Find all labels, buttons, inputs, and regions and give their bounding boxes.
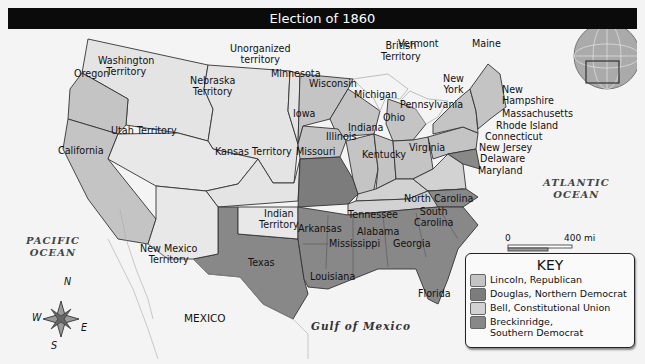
label-unorganized-territory: Unorganizedterritory [230,44,291,65]
label-maryland: Maryland [478,166,523,177]
label-new-hampshire: NewHampshire [502,85,554,106]
label-california: California [58,146,104,157]
label-new-mexico-territory: New MexicoTerritory [140,244,197,265]
label-mississippi: Mississippi [329,239,380,250]
key-item-lincoln: Lincoln, Republican [470,274,634,287]
label-new-jersey: New Jersey [479,143,532,154]
scale-bar [508,245,572,251]
region-missouri [298,157,358,207]
locator-globe [574,29,637,89]
label-iowa: Iowa [293,109,315,120]
label-florida: Florida [418,289,451,300]
compass-rose [43,301,79,337]
compass-s: S [51,341,57,352]
label-delaware: Delaware [480,154,525,165]
key-title: KEY [466,257,634,273]
label-georgia: Georgia [393,239,431,250]
label-kentucky: Kentucky [362,150,406,161]
compass-n: N [64,277,71,288]
label-illinois: Illinois [326,132,356,143]
label-oregon: Oregon [74,69,109,80]
key-item-douglas: Douglas, Northern Democrat [470,288,634,301]
label-rhode-island: Rhode Island [496,121,558,132]
label-michigan: Michigan [354,90,397,101]
label-missouri: Missouri [296,147,336,158]
label-utah-territory: Utah Territory [111,126,177,137]
key-item-breckinridge: Breckinridge,Southern Democrat [470,316,634,338]
label-tennessee: Tennessee [348,210,398,221]
compass-e: E [81,323,87,334]
label-texas: Texas [248,258,275,269]
key-item-bell: Bell, Constitutional Union [470,302,634,315]
compass-w: W [32,313,42,324]
swatch-breckinridge [470,316,486,329]
label-wisconsin: Wisconsin [309,79,357,90]
label-louisiana: Louisiana [310,272,355,283]
label-indiana: Indiana [348,123,384,134]
swatch-douglas [470,288,486,301]
label-virginia: Virginia [409,143,445,154]
label-alabama: Alabama [357,227,399,238]
label-gulf-of-mexico: Gulf of Mexico [311,320,411,332]
label-atlantic-ocean: ATLANTICOCEAN [543,177,610,201]
label-indian-territory: IndianTerritory [259,209,299,230]
map-title: Election of 1860 [8,8,637,29]
label-maine: Maine [472,39,501,50]
scale-mi-zero: 0 [505,233,511,243]
label-massachusetts: Massachusetts [502,109,573,120]
label-connecticut: Connecticut [485,132,542,143]
label-new-york: NewYork [443,74,464,95]
label-nebraska-territory: NebraskaTerritory [190,76,235,97]
label-british-territory: BritishTerritory [381,41,421,62]
label-north-carolina: North Carolina [404,194,473,205]
swatch-lincoln [470,274,486,287]
label-kansas-territory: Kansas Territory [215,147,292,158]
label-arkansas: Arkansas [298,224,342,235]
label-pacific-ocean: PACIFICOCEAN [26,235,80,259]
swatch-bell [470,302,486,315]
scale-mi-label: 400 mi [564,233,595,243]
label-south-carolina: SouthCarolina [414,207,453,228]
label-pennsylvania: Pennsylvania [400,100,463,111]
label-ohio: Ohio [383,113,405,124]
label-mexico: MEXICO [184,313,226,324]
map-key: KEY Lincoln, Republican Douglas, Norther… [465,253,635,348]
